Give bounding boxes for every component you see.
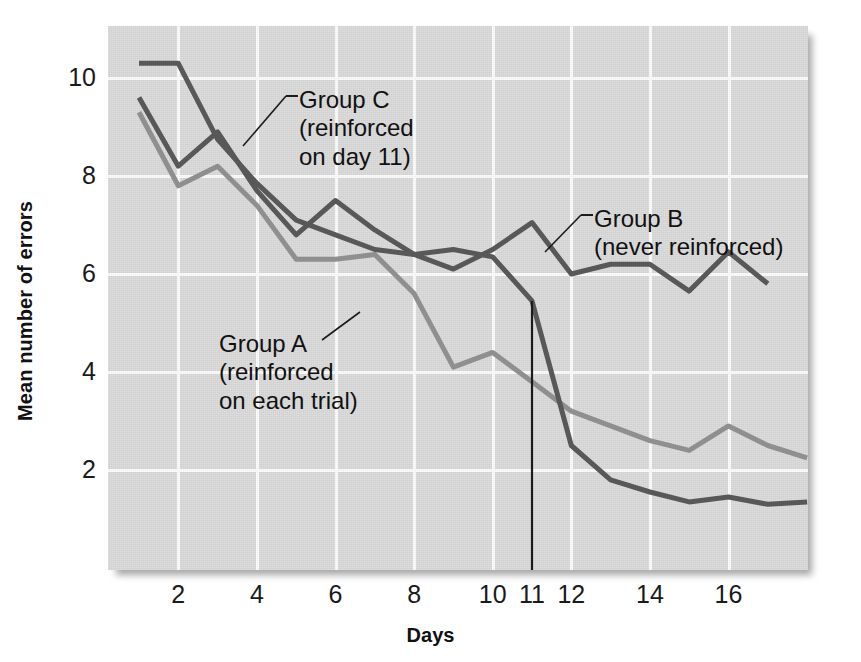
annotation-group-a: Group A (reinforced on each trial) bbox=[219, 330, 358, 415]
x-tick-label: 8 bbox=[407, 582, 421, 607]
y-tick-label: 8 bbox=[44, 163, 96, 188]
x-tick-label: 11 bbox=[519, 582, 545, 607]
series-line-group-b bbox=[139, 98, 768, 292]
y-tick-label: 6 bbox=[44, 261, 96, 286]
x-tick-label: 10 bbox=[479, 582, 507, 607]
annotation-group-c: Group C (reinforced on day 11) bbox=[299, 86, 414, 171]
y-axis-ticks: 108642 bbox=[44, 0, 96, 662]
leader-line-group-b-hook bbox=[545, 215, 581, 252]
leader-line-group-c-hook bbox=[243, 96, 286, 146]
x-tick-label: 16 bbox=[715, 582, 743, 607]
x-axis-label: Days bbox=[0, 624, 861, 647]
x-tick-label: 2 bbox=[171, 582, 185, 607]
data-lines-layer bbox=[0, 0, 861, 662]
figure: 108642 24681011121416 Mean number of err… bbox=[0, 0, 861, 662]
y-tick-label: 2 bbox=[44, 457, 96, 482]
y-axis-label: Mean number of errors bbox=[14, 176, 48, 446]
y-tick-label: 4 bbox=[44, 359, 96, 384]
x-tick-label: 12 bbox=[557, 582, 585, 607]
x-axis-ticks: 24681011121416 bbox=[0, 582, 861, 622]
y-tick-label: 10 bbox=[44, 65, 96, 90]
annotation-group-b: Group B (never reinforced) bbox=[594, 205, 783, 262]
x-tick-label: 6 bbox=[329, 582, 343, 607]
x-tick-label: 14 bbox=[636, 582, 664, 607]
x-tick-label: 4 bbox=[250, 582, 264, 607]
